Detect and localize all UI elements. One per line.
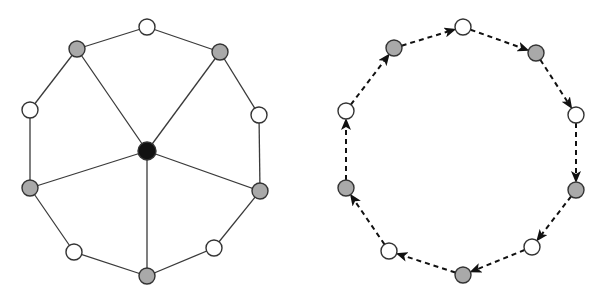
white-node bbox=[206, 240, 222, 256]
wheel-nodes bbox=[22, 19, 268, 284]
gray-node bbox=[528, 45, 544, 61]
cycle-edge bbox=[30, 49, 77, 110]
directed-edge bbox=[540, 60, 568, 103]
gray-node bbox=[139, 268, 155, 284]
arrowhead-icon bbox=[381, 55, 388, 65]
white-node bbox=[251, 107, 267, 123]
white-node bbox=[381, 243, 397, 259]
cycle-edge bbox=[147, 27, 220, 52]
white-node bbox=[22, 102, 38, 118]
spoke-edge bbox=[147, 52, 220, 151]
directed-edge bbox=[541, 196, 571, 235]
gray-node bbox=[338, 180, 354, 196]
gray-node bbox=[386, 40, 402, 56]
white-node bbox=[338, 103, 354, 119]
cycle-edge bbox=[214, 191, 260, 248]
gray-node bbox=[455, 267, 471, 283]
gray-node bbox=[212, 44, 228, 60]
spoke-edge bbox=[30, 151, 147, 188]
cycle-edge bbox=[74, 252, 147, 276]
spoke-edge bbox=[147, 151, 260, 191]
directed-cycle-graph bbox=[338, 19, 584, 283]
cycle-edge bbox=[77, 27, 147, 49]
directed-edge bbox=[471, 30, 522, 48]
white-node bbox=[524, 239, 540, 255]
cycle-edge bbox=[259, 115, 260, 191]
cycle-edge bbox=[30, 188, 74, 252]
gray-node bbox=[69, 41, 85, 57]
wheel-graph bbox=[22, 19, 268, 284]
white-node bbox=[139, 19, 155, 35]
white-node bbox=[568, 107, 584, 123]
gray-node bbox=[252, 183, 268, 199]
gray-node bbox=[22, 180, 38, 196]
directed-edge bbox=[351, 60, 385, 105]
spoke-edge bbox=[77, 49, 147, 151]
cycle-edges bbox=[346, 30, 576, 273]
cycle-edge bbox=[147, 248, 214, 276]
cycle-edge bbox=[220, 52, 259, 115]
white-node bbox=[66, 244, 82, 260]
directed-edge bbox=[402, 31, 449, 45]
gray-node bbox=[568, 182, 584, 198]
white-node bbox=[455, 19, 471, 35]
directed-edge bbox=[477, 250, 525, 269]
diagram-canvas bbox=[0, 0, 601, 303]
directed-edge bbox=[403, 256, 455, 273]
directed-edge bbox=[354, 200, 384, 244]
cycle-nodes bbox=[338, 19, 584, 283]
hub-node bbox=[138, 142, 156, 160]
